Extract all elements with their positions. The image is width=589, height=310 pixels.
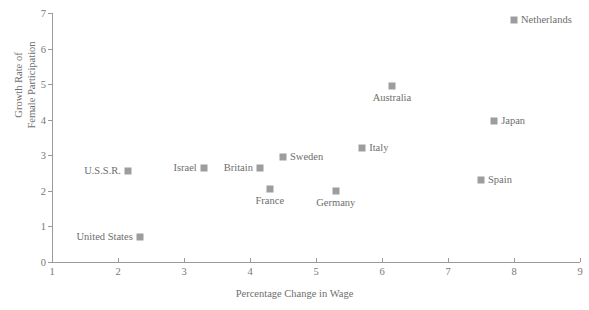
data-point-marker[interactable] [478,177,485,184]
data-point-marker[interactable] [359,145,366,152]
x-tick-label: 1 [49,266,54,277]
data-point-label: France [256,195,285,207]
data-point-marker[interactable] [280,154,287,161]
x-tick-label: 4 [247,266,252,277]
y-tick-label: 2 [34,185,46,196]
x-tick-label: 5 [313,266,318,277]
data-point-label: Germany [316,197,355,209]
x-tick-mark [448,258,449,262]
y-tick-mark [48,155,52,156]
data-point-label: Britain [224,162,253,174]
data-point-marker[interactable] [200,164,207,171]
data-point-label: Japan [501,115,525,127]
data-point-label: Sweden [290,151,323,163]
x-tick-label: 3 [181,266,186,277]
y-tick-mark [48,84,52,85]
x-tick-label: 2 [115,266,120,277]
y-tick-label: 0 [34,257,46,268]
y-tick-mark [48,13,52,14]
data-point-label: U.S.S.R. [84,165,121,177]
data-point-marker[interactable] [266,186,273,193]
y-axis-title-line-1: Growth Rate of [12,0,25,170]
data-point-marker[interactable] [124,168,131,175]
x-tick-mark [250,258,251,262]
y-tick-label: 1 [34,221,46,232]
y-axis-line [52,13,53,262]
y-tick-mark [48,49,52,50]
y-tick-mark [48,120,52,121]
x-tick-mark [316,258,317,262]
data-point-marker[interactable] [136,234,143,241]
data-point-label: Spain [488,174,512,186]
x-tick-label: 6 [379,266,384,277]
y-axis-title: Growth Rate of Female Participation [12,0,38,170]
x-tick-mark [382,258,383,262]
y-axis-title-line-2: Female Participation [25,0,38,170]
x-tick-mark [580,258,581,262]
data-point-label: United States [76,231,132,243]
data-point-label: Australia [373,92,412,104]
x-tick-mark [118,258,119,262]
scatter-chart: 123456789 01234567 NetherlandsAustraliaJ… [0,0,589,310]
data-point-marker[interactable] [256,164,263,171]
y-tick-mark [48,262,52,263]
data-point-marker[interactable] [388,82,395,89]
x-tick-mark [52,258,53,262]
x-axis-line [52,262,580,263]
data-point-marker[interactable] [491,118,498,125]
y-tick-mark [48,191,52,192]
x-tick-mark [514,258,515,262]
data-point-label: Netherlands [521,14,572,26]
data-point-label: Israel [173,162,196,174]
x-tick-mark [184,258,185,262]
x-tick-label: 9 [577,266,582,277]
x-tick-label: 7 [445,266,450,277]
x-axis-title: Percentage Change in Wage [0,288,589,299]
data-point-label: Italy [369,142,388,154]
x-tick-label: 8 [511,266,516,277]
data-point-marker[interactable] [332,187,339,194]
y-tick-mark [48,226,52,227]
data-point-marker[interactable] [511,17,518,24]
